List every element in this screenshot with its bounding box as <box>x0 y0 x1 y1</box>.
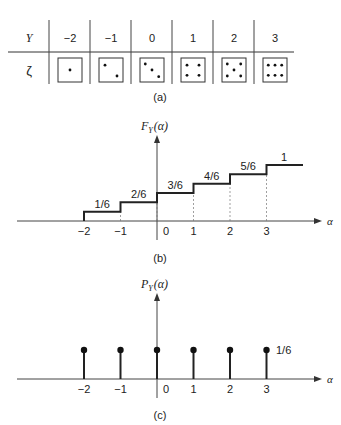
x-axis-arrow-icon <box>314 376 322 382</box>
row-label-y: Y <box>26 31 34 45</box>
y-value: −2 <box>64 32 77 44</box>
step-value-label: 3/6 <box>168 179 183 191</box>
die-face-4-icon <box>181 58 205 82</box>
row-label-zeta: ζ <box>26 63 32 78</box>
pmf-stem <box>154 347 160 379</box>
stem-dot <box>81 347 87 353</box>
pmf-stem <box>81 347 87 379</box>
pmf-stem <box>227 347 233 379</box>
y-axis-label: FY(α) <box>140 119 168 135</box>
x-tick-label: 0 <box>163 383 169 395</box>
x-tick-label: 0 <box>163 225 169 237</box>
y-value: 1 <box>190 32 196 44</box>
y-axis-arrow-icon <box>154 135 160 143</box>
x-tick-label: 3 <box>263 225 269 237</box>
y-value: 2 <box>231 32 237 44</box>
pmf-stem <box>117 347 123 379</box>
y-axis-label: PY(α) <box>140 277 168 293</box>
stem-dot <box>190 347 196 353</box>
step-value-label: 1 <box>281 151 287 163</box>
die-face-5-icon <box>222 58 246 82</box>
stem-dot <box>227 347 233 353</box>
caption-c: (c) <box>154 409 167 421</box>
x-tick-label: −2 <box>78 225 91 237</box>
step-value-label: 5/6 <box>241 160 256 172</box>
x-tick-label: −2 <box>78 383 91 395</box>
stem-dot <box>263 347 269 353</box>
x-tick-label: 2 <box>227 225 233 237</box>
die-face-1-icon <box>58 58 82 82</box>
pmf-plot: α PY(α) −2−10123 1/6 (c) <box>17 277 333 421</box>
step-value-label: 4/6 <box>204 170 219 182</box>
cdf-plot: α FY(α) 1/62/63/64/65/61 −2−10123 (b) <box>17 119 333 264</box>
x-tick-label: −1 <box>114 225 127 237</box>
die-face-3-icon <box>140 58 164 82</box>
figure: Y ζ −2−10123 (a) α FY(α) 1/62/63/64/65/6… <box>0 0 341 425</box>
caption-b: (b) <box>153 252 166 264</box>
y-value: −1 <box>105 32 118 44</box>
y-axis-arrow-icon <box>154 293 160 301</box>
stem-dot <box>154 347 160 353</box>
x-axis-arrow-icon <box>314 218 322 224</box>
stem-value-label: 1/6 <box>276 344 291 356</box>
x-tick-label: 3 <box>263 383 269 395</box>
x-tick-label: 2 <box>227 383 233 395</box>
stem-dot <box>117 347 123 353</box>
caption-a: (a) <box>153 91 166 103</box>
mapping-table: Y ζ −2−10123 (a) <box>8 20 294 103</box>
step-value-label: 1/6 <box>95 198 110 210</box>
y-value: 3 <box>272 32 278 44</box>
x-axis-label: α <box>327 373 333 385</box>
x-tick-label: 1 <box>190 225 196 237</box>
pmf-stem <box>190 347 196 379</box>
die-face-6-icon <box>263 58 287 82</box>
y-value: 0 <box>149 32 155 44</box>
pmf-stem <box>263 347 269 379</box>
x-tick-label: 1 <box>190 383 196 395</box>
x-tick-label: −1 <box>114 383 127 395</box>
step-value-label: 2/6 <box>131 188 146 200</box>
die-face-2-icon <box>99 58 123 82</box>
x-axis-label: α <box>327 215 333 227</box>
